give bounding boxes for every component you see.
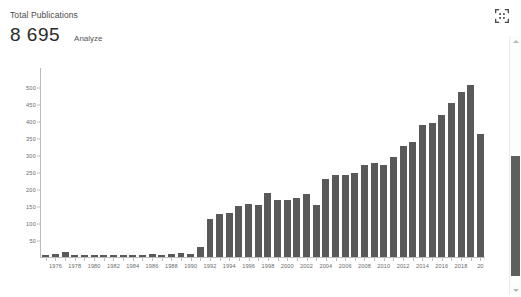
bar[interactable] bbox=[390, 157, 397, 257]
x-tick-mark bbox=[384, 258, 385, 261]
x-tick-mark bbox=[374, 258, 375, 261]
bar[interactable] bbox=[332, 175, 339, 257]
bar[interactable] bbox=[71, 255, 78, 257]
bar-slot bbox=[60, 68, 70, 257]
bar-slot bbox=[80, 68, 90, 257]
bar[interactable] bbox=[187, 254, 194, 257]
bar-slot bbox=[398, 68, 408, 257]
bar[interactable] bbox=[149, 254, 156, 257]
x-tick-slot: 1992 bbox=[205, 258, 215, 288]
bar[interactable] bbox=[313, 205, 320, 257]
bar[interactable] bbox=[52, 254, 59, 257]
bar-slot bbox=[99, 68, 109, 257]
bar[interactable] bbox=[62, 252, 69, 257]
bar-slot bbox=[224, 68, 234, 257]
bar-slot bbox=[186, 68, 196, 257]
bar[interactable] bbox=[245, 204, 252, 257]
bar[interactable] bbox=[361, 165, 368, 257]
bar[interactable] bbox=[197, 247, 204, 257]
bar[interactable] bbox=[100, 255, 107, 257]
bar[interactable] bbox=[274, 200, 281, 257]
y-tick-mark bbox=[37, 241, 40, 242]
bar[interactable] bbox=[293, 198, 300, 257]
bar-slot bbox=[196, 68, 206, 257]
bar-slot bbox=[205, 68, 215, 257]
bar[interactable] bbox=[91, 255, 98, 257]
bar[interactable] bbox=[216, 214, 223, 257]
bar[interactable] bbox=[168, 254, 175, 257]
x-tick-mark bbox=[432, 258, 433, 261]
x-tick-mark bbox=[123, 258, 124, 261]
bar-slot bbox=[331, 68, 341, 257]
bar[interactable] bbox=[380, 165, 387, 257]
bar[interactable] bbox=[419, 125, 426, 257]
x-tick-mark bbox=[451, 258, 452, 261]
bar[interactable] bbox=[178, 253, 185, 257]
x-tick-mark bbox=[65, 258, 66, 261]
bar[interactable] bbox=[264, 193, 271, 257]
x-tick-mark bbox=[239, 258, 240, 261]
collapse-arrows-icon[interactable] bbox=[495, 9, 509, 23]
scroll-down-arrow-icon[interactable] bbox=[510, 285, 521, 295]
x-tick-mark bbox=[471, 258, 472, 261]
bar[interactable] bbox=[284, 200, 291, 257]
scrollbar-thumb[interactable] bbox=[511, 156, 520, 276]
analyze-link[interactable]: Analyze bbox=[74, 34, 102, 43]
bar[interactable] bbox=[255, 205, 262, 257]
bar-slot bbox=[447, 68, 457, 257]
y-tick-mark bbox=[37, 173, 40, 174]
x-tick-mark bbox=[258, 258, 259, 261]
bar-slot bbox=[360, 68, 370, 257]
bar[interactable] bbox=[303, 194, 310, 257]
bar[interactable] bbox=[400, 146, 407, 257]
bar-slot bbox=[118, 68, 128, 257]
bar[interactable] bbox=[477, 134, 484, 257]
y-tick-mark bbox=[37, 207, 40, 208]
bar[interactable] bbox=[129, 255, 136, 257]
x-tick-slot: 1996 bbox=[244, 258, 254, 288]
bar[interactable] bbox=[429, 123, 436, 257]
bar[interactable] bbox=[458, 92, 465, 257]
bar[interactable] bbox=[81, 255, 88, 257]
x-tick-slot: 2002 bbox=[302, 258, 312, 288]
y-tick-mark bbox=[37, 156, 40, 157]
bar-slot bbox=[302, 68, 312, 257]
x-tick-mark bbox=[442, 258, 443, 261]
x-tick-mark bbox=[171, 258, 172, 261]
x-tick-label: 20 bbox=[477, 263, 483, 269]
x-tick-slot: 2016 bbox=[437, 258, 447, 288]
bar-slot bbox=[167, 68, 177, 257]
bar[interactable] bbox=[322, 179, 329, 257]
x-tick-mark bbox=[200, 258, 201, 261]
bar[interactable] bbox=[448, 103, 455, 257]
x-tick-slot: 1984 bbox=[128, 258, 138, 288]
scroll-up-arrow-icon[interactable] bbox=[510, 36, 521, 46]
bar[interactable] bbox=[139, 255, 146, 257]
x-tick-mark bbox=[229, 258, 230, 261]
bar[interactable] bbox=[207, 219, 214, 257]
bar[interactable] bbox=[409, 142, 416, 257]
x-tick-mark bbox=[268, 258, 269, 261]
bar[interactable] bbox=[235, 206, 242, 257]
y-tick-mark bbox=[37, 88, 40, 89]
x-tick-slot: 2004 bbox=[321, 258, 331, 288]
bar[interactable] bbox=[158, 255, 165, 257]
x-tick-slot: 1998 bbox=[263, 258, 273, 288]
bar[interactable] bbox=[371, 163, 378, 257]
bar[interactable] bbox=[467, 85, 474, 257]
bar[interactable] bbox=[42, 255, 49, 257]
bar[interactable] bbox=[226, 213, 233, 257]
kpi-row: 8 695 Analyze bbox=[10, 24, 310, 45]
x-tick-mark bbox=[345, 258, 346, 261]
bar[interactable] bbox=[120, 255, 127, 257]
x-tick-mark bbox=[480, 258, 481, 261]
bar-slot bbox=[389, 68, 399, 257]
x-tick-mark bbox=[297, 258, 298, 261]
bar[interactable] bbox=[110, 255, 117, 257]
x-tick-mark bbox=[220, 258, 221, 261]
bar[interactable] bbox=[438, 115, 445, 257]
x-tick-slot: 2014 bbox=[418, 258, 428, 288]
bar[interactable] bbox=[342, 175, 349, 257]
bar[interactable] bbox=[351, 173, 358, 257]
vertical-scrollbar[interactable] bbox=[509, 36, 521, 295]
